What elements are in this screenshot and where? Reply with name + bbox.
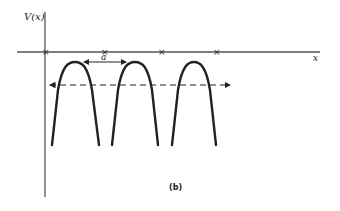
panel-label: (b): [169, 183, 182, 192]
y-axis-label: V(x): [24, 11, 45, 22]
potential-humps: [52, 62, 216, 145]
lattice-site-marker: ×: [158, 47, 166, 57]
potential-hump: [52, 62, 99, 145]
lattice-site-marker: ×: [42, 47, 50, 57]
lattice-site-marker: ×: [213, 47, 221, 57]
x-axis-label: x: [313, 53, 318, 63]
potential-hump: [172, 62, 216, 145]
lattice-spacing-label: a: [101, 52, 106, 62]
potential-hump: [112, 62, 158, 145]
periodic-potential-diagram: V(x) x × × × × a (b): [0, 0, 340, 211]
